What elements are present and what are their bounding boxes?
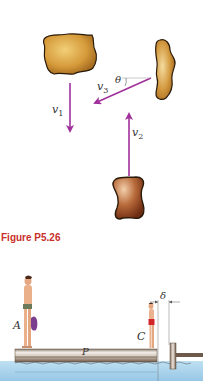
person-c	[149, 303, 155, 349]
dock-post	[170, 343, 176, 369]
theta-arc	[125, 78, 126, 86]
v3-label: v3	[97, 80, 108, 95]
fixed-dock	[176, 353, 203, 357]
figure-graphics	[0, 0, 203, 381]
theta-label: θ	[115, 74, 121, 85]
v2-label: v2	[132, 126, 143, 141]
label-a: A	[13, 319, 21, 332]
fragment-3	[156, 40, 176, 100]
label-p: P	[82, 346, 89, 357]
label-c: C	[137, 330, 145, 343]
fragment-2	[113, 177, 144, 219]
label-delta: δ	[160, 290, 166, 301]
v1-label: v1	[52, 103, 63, 118]
fragment-1	[44, 34, 97, 74]
figure-caption: Figure P5.26	[1, 232, 60, 243]
person-a	[22, 276, 37, 349]
